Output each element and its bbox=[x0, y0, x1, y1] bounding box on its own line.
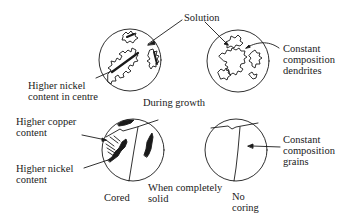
label-higher-nickel-centre: Higher nickel content in centre bbox=[28, 80, 98, 102]
label-higher-nickel-content: Higher nickel content bbox=[16, 163, 73, 185]
caption-during-growth: During growth bbox=[143, 97, 205, 108]
caption-when-completely-solid: When completely solid bbox=[148, 182, 222, 204]
no-coring-circle bbox=[205, 119, 280, 181]
label-constant-composition-dendrites: Constant composition dendrites bbox=[283, 43, 335, 76]
caption-no-coring: No coring bbox=[232, 191, 259, 213]
label-constant-composition-grains: Constant composition grains bbox=[283, 134, 335, 167]
label-solution: Solution bbox=[184, 12, 220, 23]
cored-growth-circle bbox=[96, 20, 182, 91]
uniform-growth-circle bbox=[205, 22, 279, 92]
label-higher-copper-content: Higher copper content bbox=[16, 116, 76, 138]
cored-solid-circle bbox=[82, 119, 164, 181]
caption-cored: Cored bbox=[104, 192, 130, 203]
